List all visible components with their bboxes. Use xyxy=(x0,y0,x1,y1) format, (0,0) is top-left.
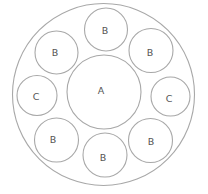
satellite-node-upper-left: B xyxy=(35,31,78,74)
satellite-label: C xyxy=(166,93,173,104)
satellite-label: B xyxy=(50,134,57,145)
satellite-label: B xyxy=(102,25,109,36)
satellite-node-right: C xyxy=(151,77,190,116)
satellite-node-top: B xyxy=(85,8,128,51)
satellite-label: B xyxy=(147,47,154,58)
satellite-node-left: C xyxy=(17,76,57,116)
satellite-label: C xyxy=(33,91,40,102)
satellite-label: B xyxy=(148,136,155,147)
satellite-node-upper-right: B xyxy=(129,29,173,73)
satellite-label: B xyxy=(100,152,107,163)
center-label: A xyxy=(98,85,105,96)
satellite-node-lower-right: B xyxy=(129,119,173,163)
satellite-label: B xyxy=(52,47,59,58)
satellite-circle xyxy=(35,118,79,162)
satellite-node-bottom: B xyxy=(83,133,127,177)
satellite-node-lower-left: B xyxy=(35,118,79,162)
center-node: A xyxy=(67,55,141,129)
circle-arrangement-diagram: A B B C B B B C B xyxy=(0,0,208,194)
